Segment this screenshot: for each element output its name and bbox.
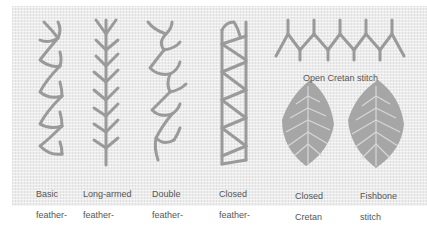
label-open-cretan-stitch: Open Cretan stitch xyxy=(303,62,378,94)
basic-feather-stitch-drawing xyxy=(40,22,62,154)
open-cretan-stitch-drawing xyxy=(276,20,404,60)
stitch-illustration: Basic feather- stitch Long-armed feather… xyxy=(0,0,427,226)
label-basic-feather-stitch: Basic feather- stitch xyxy=(36,178,67,226)
label-closed-feather-stitch: Closed feather- stitch xyxy=(219,178,250,226)
label-double-feather-stitch: Double feather- stitch xyxy=(152,178,183,226)
label-long-armed-feather-stitch: Long-armed feather- stitch xyxy=(83,178,132,226)
double-feather-stitch-drawing xyxy=(148,22,186,160)
label-fishbone-stitch: Fishbone stitch xyxy=(360,180,397,226)
label-closed-cretan-stitch: Closed Cretan stitch xyxy=(295,180,323,226)
long-armed-feather-stitch-drawing xyxy=(94,20,118,165)
closed-feather-stitch-drawing xyxy=(222,22,246,164)
